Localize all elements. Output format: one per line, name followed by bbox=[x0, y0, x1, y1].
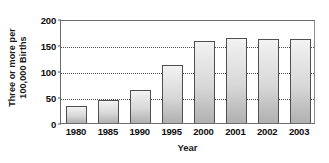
bar bbox=[290, 39, 311, 123]
x-tick-label: 2003 bbox=[289, 126, 309, 137]
y-tick-label: 200 bbox=[41, 15, 56, 26]
x-tick-label: 1980 bbox=[66, 126, 86, 137]
x-tick-label: 1985 bbox=[98, 126, 118, 137]
y-axis-title: Three or more per 100,000 Births bbox=[0, 0, 34, 135]
y-tick-label: 0 bbox=[51, 119, 56, 130]
plot-area bbox=[60, 20, 315, 124]
y-axis-title-line-1: Three or more per bbox=[7, 28, 18, 107]
y-tick-label: 150 bbox=[41, 41, 56, 52]
y-tick-label: 100 bbox=[41, 67, 56, 78]
bar bbox=[226, 38, 247, 123]
bar bbox=[66, 106, 87, 123]
bar bbox=[98, 100, 119, 123]
bar bbox=[194, 41, 215, 123]
bars-group bbox=[61, 21, 314, 123]
y-axis-tick-labels: 050100150200 bbox=[30, 0, 58, 135]
x-axis-tick-labels: 19801985199019952000200120022003 bbox=[60, 126, 315, 142]
y-tick-label: 50 bbox=[46, 93, 56, 104]
y-axis-title-line-2: 100,000 Births bbox=[17, 28, 28, 107]
bar bbox=[130, 90, 151, 123]
x-tick-label: 1990 bbox=[130, 126, 150, 137]
x-tick-label: 1995 bbox=[161, 126, 181, 137]
x-axis-title: Year bbox=[60, 142, 315, 153]
bar-chart-figure: Three or more per 100,000 Births 0501001… bbox=[0, 0, 329, 163]
bar bbox=[258, 39, 279, 123]
x-tick-label: 2000 bbox=[193, 126, 213, 137]
x-tick-label: 2002 bbox=[257, 126, 277, 137]
bar bbox=[162, 65, 183, 123]
x-tick-label: 2001 bbox=[225, 126, 245, 137]
